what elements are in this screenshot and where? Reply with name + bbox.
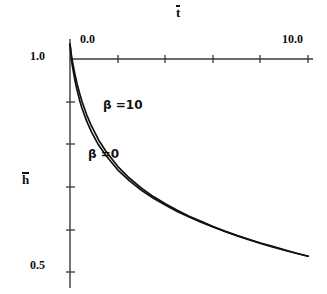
series-label-beta-10: β =10	[103, 99, 143, 111]
y-tick-label-0-5: 0.5	[30, 259, 45, 271]
x-axis-title: t	[176, 5, 180, 19]
x-axis-title-text: t	[176, 5, 180, 19]
y-tick-label-1-0: 1.0	[30, 50, 45, 62]
y-axis-title-text: h	[22, 172, 29, 186]
x-tick-label-0: 0.0	[80, 33, 95, 45]
series-label-beta-0: β =0	[88, 148, 119, 160]
x-tick-label-10: 10.0	[282, 33, 303, 45]
plot-canvas	[0, 0, 327, 294]
chart-figure: t h 0.0 10.0 1.0 0.5 β =10 β =0	[0, 0, 327, 294]
y-axis-title: h	[22, 172, 29, 186]
